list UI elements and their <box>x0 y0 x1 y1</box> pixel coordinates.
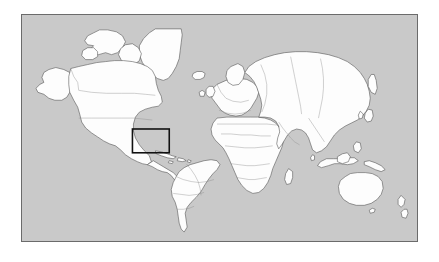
world-map-svg <box>22 15 417 241</box>
figure-root <box>0 0 439 262</box>
world-map-frame <box>21 14 418 242</box>
